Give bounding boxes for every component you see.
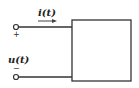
current-label: i(t) bbox=[38, 7, 56, 18]
minus-sign: − bbox=[13, 64, 20, 73]
bottom-terminal-icon bbox=[14, 75, 19, 80]
circuit-diagram: i(t) + u(t) − bbox=[0, 0, 139, 88]
arrowhead-icon bbox=[52, 19, 57, 23]
top-terminal-icon bbox=[14, 25, 19, 30]
network-box bbox=[72, 20, 131, 81]
plus-sign: + bbox=[13, 30, 20, 39]
